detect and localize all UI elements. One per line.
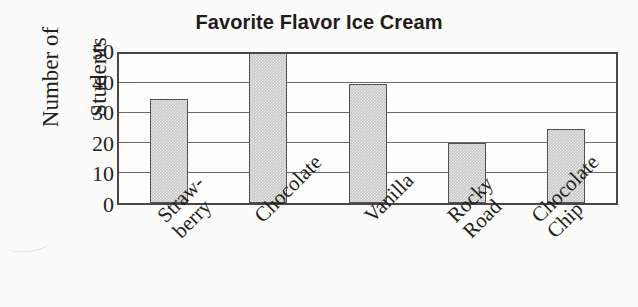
chart-canvas: Favorite Flavor Ice Cream Number of Stud… — [0, 0, 638, 307]
bar-slot-strawberry — [119, 54, 218, 203]
y-axis-tick-labels: 50 40 30 20 10 0 — [86, 52, 114, 205]
y-tick-30: 30 — [92, 102, 114, 124]
y-tick-50: 50 — [92, 41, 114, 63]
scan-artifact — [7, 234, 51, 255]
x-axis-tick-labels: Straw- berry Chocolate Vanilla Rocky Roa… — [117, 205, 618, 307]
y-tick-40: 40 — [92, 71, 114, 93]
bar-slot-rocky-road — [417, 54, 516, 203]
bar-vanilla — [349, 84, 387, 203]
y-tick-10: 10 — [92, 163, 114, 185]
y-tick-20: 20 — [92, 132, 114, 154]
y-tick-0: 0 — [103, 194, 114, 216]
y-axis-label-line-1: Number of — [39, 27, 63, 127]
